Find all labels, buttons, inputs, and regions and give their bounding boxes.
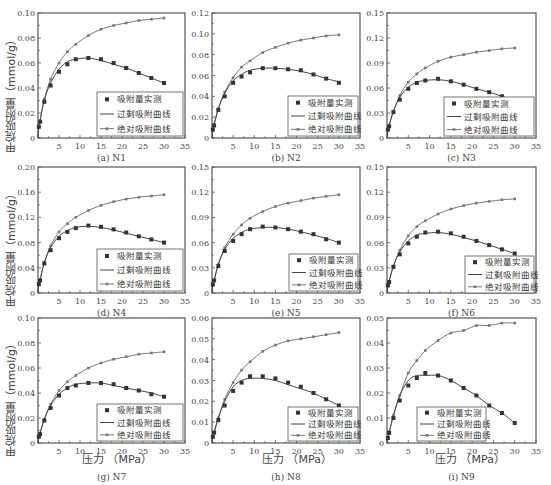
x-tick-label: 35 (355, 142, 365, 151)
y-tick-label: 0.06 (191, 72, 209, 81)
panel-caption: (e) N5 (272, 308, 301, 318)
x-tick-label: 20 (117, 142, 127, 151)
absolute-marker (475, 202, 478, 205)
x-tick-label: 30 (334, 142, 344, 151)
measured-point (398, 252, 402, 256)
measured-point (49, 406, 53, 410)
panel-caption: (c) N3 (447, 153, 476, 163)
absolute-marker (138, 196, 141, 199)
measured-point (240, 75, 244, 79)
measured-point (324, 77, 328, 81)
measured-point (311, 232, 315, 236)
legend-label: 吸附量实测 (308, 408, 353, 418)
x-tick-label: 5 (406, 447, 411, 456)
legend-label: 吸附量实测 (464, 99, 509, 109)
absolute-marker (87, 367, 90, 370)
absolute-marker (338, 193, 341, 196)
y-tick-label: 0.09 (191, 213, 209, 222)
legend-label: 过剩吸附曲线 (308, 111, 362, 121)
measured-point (231, 239, 235, 243)
measured-point (311, 391, 315, 395)
y-tick-label: 0.03 (191, 264, 209, 273)
measured-point (65, 62, 69, 66)
y-tick-label: 0 (30, 134, 35, 143)
measured-point (162, 395, 166, 399)
legend: 吸附量实测过剩吸附曲线绝对吸附曲线 (97, 249, 183, 291)
absolute-marker (287, 202, 290, 205)
absolute-marker (249, 217, 252, 220)
legend-measured-symbol (105, 254, 109, 258)
x-tick-label: 35 (180, 142, 190, 151)
measured-point (273, 225, 277, 229)
measured-point (149, 392, 153, 396)
measured-point (37, 282, 41, 286)
absolute-marker (112, 24, 115, 27)
legend-label: 过剩吸附曲线 (437, 419, 491, 429)
legend: 吸附量实测过剩吸附曲线绝对吸附曲线 (97, 404, 183, 441)
measured-point (406, 384, 410, 388)
figure: 00.020.040.060.080.105101520253035吸附量实测过… (0, 0, 551, 485)
legend-label: 过剩吸附曲线 (117, 109, 171, 119)
y-tick-label: 0.03 (191, 377, 209, 386)
measured-point (474, 87, 478, 91)
x-tick-label: 5 (56, 297, 61, 306)
y-tick-label: 0.03 (366, 264, 384, 273)
x-axis-label-h: 压力 （MPa） (262, 450, 332, 466)
absolute-marker (287, 42, 290, 45)
x-tick-label: 15 (446, 297, 456, 306)
absolute-marker (338, 331, 341, 334)
measured-point (112, 227, 116, 231)
legend-measured-symbol (473, 260, 477, 264)
x-tick-label: 5 (56, 447, 61, 456)
measured-point (462, 235, 466, 239)
absolute-marker (338, 34, 341, 37)
legend-label: 绝对吸附曲线 (117, 124, 171, 134)
absolute-marker (416, 73, 419, 76)
absolute-marker (163, 17, 166, 20)
x-tick-label: 30 (510, 447, 520, 456)
absolute-marker (300, 199, 303, 202)
x-tick-label: 30 (159, 297, 169, 306)
absolute-marker (261, 350, 264, 353)
measured-point (212, 124, 216, 128)
absolute-marker (300, 338, 303, 341)
absolute-marker (100, 204, 103, 207)
y-tick-label: 0 (379, 134, 384, 143)
measured-point (149, 76, 153, 80)
x-tick-label: 10 (75, 297, 85, 306)
x-tick-label: 10 (75, 142, 85, 151)
measured-point (211, 435, 215, 439)
measured-point (38, 278, 42, 282)
legend: 吸附量实测过剩吸附曲线绝对吸附曲线 (289, 254, 363, 291)
legend-label: 吸附量实测 (117, 251, 162, 261)
measured-point (57, 236, 61, 240)
absolute-marker (501, 48, 504, 51)
absolute-marker (232, 233, 235, 236)
x-tick-label: 5 (231, 142, 236, 151)
measured-point (462, 83, 466, 87)
measured-point (124, 231, 128, 235)
absolute-marker (249, 360, 252, 363)
absolute-marker (125, 22, 128, 25)
y-tick-label: 0.09 (366, 59, 384, 68)
y-tick-label: 0 (204, 439, 209, 448)
x-tick-label: 10 (249, 142, 259, 151)
y-tick-label: 0.09 (366, 213, 384, 222)
x-tick-label: 5 (406, 297, 411, 306)
y-tick-label: 0.02 (191, 113, 209, 122)
measured-point (216, 264, 220, 268)
measured-point (337, 241, 341, 245)
panel-caption: (i) N9 (448, 472, 475, 482)
measured-point (231, 81, 235, 85)
legend-measured-symbol (296, 411, 300, 415)
measured-point (261, 374, 265, 378)
measured-point (223, 94, 227, 98)
absolute-marker (437, 213, 440, 216)
absolute-marker (240, 224, 243, 227)
legend-measured-symbol (297, 258, 301, 262)
measured-point (42, 261, 46, 265)
legend-label: 过剩吸附曲线 (485, 270, 539, 280)
absolute-marker (58, 231, 61, 234)
legend-label: 绝对吸附曲线 (437, 430, 491, 440)
absolute-marker (513, 198, 516, 201)
